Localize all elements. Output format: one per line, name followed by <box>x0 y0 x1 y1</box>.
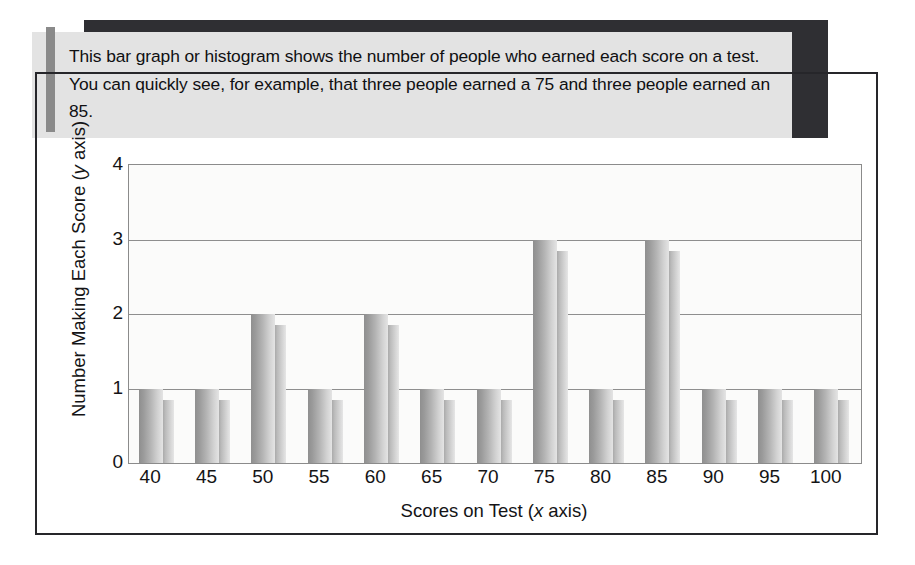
x-axis-tick-label: 90 <box>683 466 743 488</box>
bar-series <box>129 165 861 463</box>
x-axis-tick-label: 95 <box>740 466 800 488</box>
bar <box>195 389 232 464</box>
bar-front-face <box>758 389 782 464</box>
bar-front-face <box>477 389 501 464</box>
x-axis-tick-label: 50 <box>233 466 293 488</box>
bar-front-face <box>364 314 388 463</box>
bar-front-face <box>251 314 275 463</box>
bar-chart: Number Making Each Score (y axis) 01234 … <box>35 72 878 535</box>
x-axis-tick-label: 70 <box>458 466 518 488</box>
bar-front-face <box>589 389 613 464</box>
bar <box>251 314 288 463</box>
bar-front-face <box>195 389 219 464</box>
x-axis-tick-labels: 404550556065707580859095100 <box>128 466 860 498</box>
y-axis-tick-labels: 01234 <box>95 72 123 535</box>
bar <box>533 240 570 464</box>
x-axis-tick-label: 55 <box>289 466 349 488</box>
bar <box>702 389 739 464</box>
bar <box>364 314 401 463</box>
bar <box>814 389 851 464</box>
y-axis-tick-label: 3 <box>97 228 123 250</box>
bar-front-face <box>702 389 726 464</box>
bar-front-face <box>139 389 163 464</box>
bar-front-face <box>420 389 444 464</box>
y-axis-tick-label: 2 <box>97 302 123 324</box>
bar <box>477 389 514 464</box>
y-axis-tick-label: 4 <box>97 153 123 175</box>
bar <box>308 389 345 464</box>
x-axis-tick-label: 100 <box>796 466 856 488</box>
x-axis-title: Scores on Test (x axis) <box>128 500 860 522</box>
x-axis-tick-label: 65 <box>402 466 462 488</box>
plot-area <box>128 164 862 464</box>
y-axis-tick-label: 1 <box>97 377 123 399</box>
x-axis-tick-label: 85 <box>627 466 687 488</box>
x-axis-tick-label: 45 <box>176 466 236 488</box>
x-axis-tick-label: 40 <box>120 466 180 488</box>
y-axis-tick-label: 0 <box>97 451 123 473</box>
bar <box>589 389 626 464</box>
bar <box>420 389 457 464</box>
bar-front-face <box>533 240 557 464</box>
bar <box>139 389 176 464</box>
x-axis-title-prefix: Scores on Test ( <box>401 500 534 521</box>
y-axis-title-prefix: Number Making Each Score ( <box>68 174 89 417</box>
bar <box>758 389 795 464</box>
x-axis-title-variable: x <box>534 500 543 521</box>
bar <box>645 240 682 464</box>
y-axis-title: Number Making Each Score (y axis) <box>68 109 90 429</box>
x-axis-tick-label: 75 <box>514 466 574 488</box>
y-axis-title-suffix: axis) <box>68 121 89 165</box>
x-axis-tick-label: 80 <box>571 466 631 488</box>
y-axis-title-variable: y <box>68 165 89 174</box>
bar-front-face <box>645 240 669 464</box>
bar-front-face <box>308 389 332 464</box>
bar-front-face <box>814 389 838 464</box>
x-axis-title-suffix: axis) <box>543 500 587 521</box>
x-axis-tick-label: 60 <box>345 466 405 488</box>
